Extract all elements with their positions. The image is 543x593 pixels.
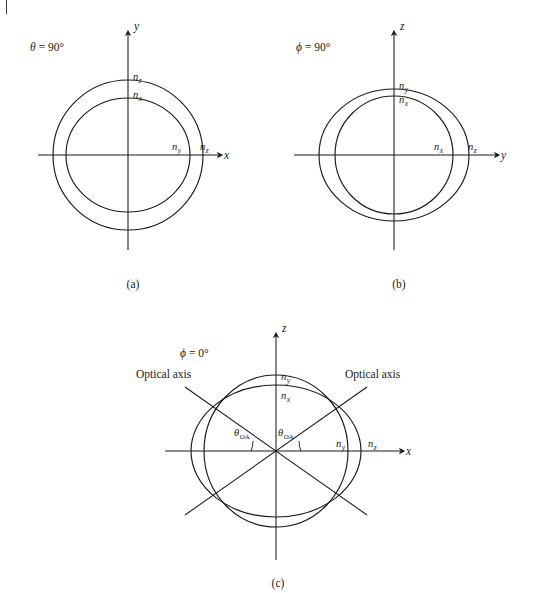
panel-a-condition-label: θ= 90° [30,41,65,53]
panel-a-vertical-inner-label: nx [133,89,143,103]
panel-b-vertical-inner-label: nx [399,94,409,108]
panel-c-horizontal-inner-label: ny [336,438,346,452]
panel-a: x y nz nx ny nz θ= 90° (a) [30,20,230,291]
panel-b-condition-label: ϕ= 90° [296,41,331,54]
panel-a-vertical-outer-label: nz [133,71,142,85]
panel-b-vertical-outer-label: ny [399,80,409,94]
panel-c-angle-label-left: θOA [234,427,250,441]
panel-b-horizontal-inner-label: nx [434,141,444,155]
panel-b-x-axis-label: y [500,149,507,162]
panel-c-vertical-outer-label: ny [281,371,291,385]
panel-c-optical-axis-label-right: Optical axis [345,368,401,381]
optical-indicatrix-figure: x y nz nx ny nz θ= 90° (a) [0,0,543,593]
panel-c-angle-arc-right [299,441,301,451]
panel-a-horizontal-outer-label: nz [200,141,209,155]
panel-c-x-axis-label: x [405,445,412,457]
panel-c-caption: (c) [272,577,285,590]
panel-b: y z ny nx nx nz ϕ= 90° (b) [294,20,507,291]
panel-a-horizontal-inner-label: ny [172,141,182,155]
panel-c-angle-label-right: θOA [278,427,294,441]
panel-c-horizontal-outer-label: nz [368,438,377,452]
panel-b-caption: (b) [392,278,406,291]
panel-c-angle-arc-left [251,441,253,451]
panel-c: x z ny nx ny nz θOA θOA ϕ= 0° [136,322,412,590]
panel-c-z-axis-label: z [281,322,287,334]
panel-c-optical-axis-label-left: Optical axis [136,368,192,381]
figure-page: x y nz nx ny nz θ= 90° (a) [0,0,543,593]
panel-b-y-axis-label: z [399,20,405,32]
panel-c-condition-label: ϕ= 0° [180,347,209,360]
panel-a-caption: (a) [127,278,140,291]
panel-a-x-axis-label: x [223,149,230,161]
panel-a-y-axis-label: y [133,20,140,33]
panel-c-vertical-inner-label: nx [281,390,291,404]
